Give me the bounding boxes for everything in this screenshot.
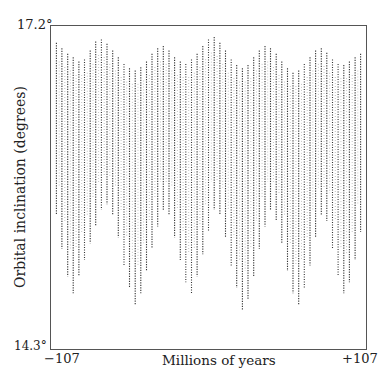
data-series — [56, 37, 360, 310]
x-axis-title: Millions of years — [162, 352, 276, 368]
y-axis-title: Orbital inclination (degrees) — [12, 86, 28, 288]
y-axis-min-label: 14.3° — [14, 339, 47, 353]
y-axis-max-label: 17.2° — [17, 17, 52, 32]
inclination-chart — [0, 0, 389, 388]
x-axis-max-label: +107 — [342, 351, 378, 366]
x-axis-min-label: −107 — [44, 351, 80, 366]
